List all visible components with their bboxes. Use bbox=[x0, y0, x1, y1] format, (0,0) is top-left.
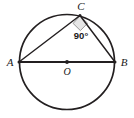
geometry-figure: A B C O 90° bbox=[0, 0, 134, 118]
point-c-dot bbox=[79, 14, 82, 17]
label-point-c: C bbox=[77, 0, 85, 12]
label-center-o: O bbox=[63, 66, 70, 77]
point-b-dot bbox=[114, 61, 117, 64]
point-a-dot bbox=[18, 61, 21, 64]
label-point-b: B bbox=[121, 56, 128, 68]
circle-diagram-svg: A B C O 90° bbox=[0, 0, 134, 118]
segment-ac bbox=[19, 16, 80, 63]
point-o-center-dot bbox=[65, 60, 69, 64]
label-point-a: A bbox=[6, 56, 14, 68]
label-right-angle-90: 90° bbox=[74, 30, 89, 41]
